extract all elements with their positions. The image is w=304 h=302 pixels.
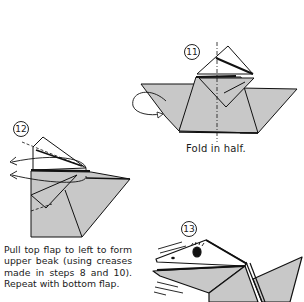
step-12-caption: Pull top flap to left to form upper beak… [4, 244, 132, 289]
step-11-figure [133, 42, 297, 142]
step-12-figure [10, 137, 130, 237]
step-11-caption: Fold in half. [186, 143, 246, 154]
step-number-12: 12 [13, 121, 29, 137]
step-number-11: 11 [184, 44, 200, 60]
step-number-13: 13 [181, 221, 197, 237]
step-13-figure [153, 240, 302, 302]
